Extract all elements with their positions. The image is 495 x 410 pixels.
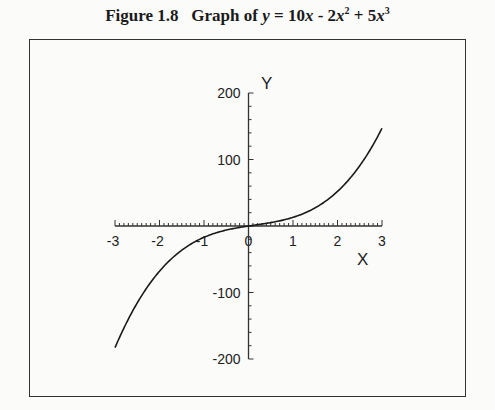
x-tick-label: 3 (378, 233, 386, 249)
x-axis-label: X (357, 250, 368, 269)
x-tick-label: 1 (289, 233, 297, 249)
y-tick-label: -200 (212, 351, 240, 367)
y-axis-label: Y (261, 74, 272, 93)
plot-area: -3-2-10123200100-100-200 Y X (0, 0, 495, 410)
x-tick-label: -3 (107, 233, 120, 249)
x-tick-label: 2 (334, 233, 342, 249)
y-tick-label: 200 (217, 85, 241, 101)
y-tick-label: -100 (212, 285, 240, 301)
x-tick-label: -2 (151, 233, 164, 249)
y-tick-label: 100 (217, 152, 241, 168)
